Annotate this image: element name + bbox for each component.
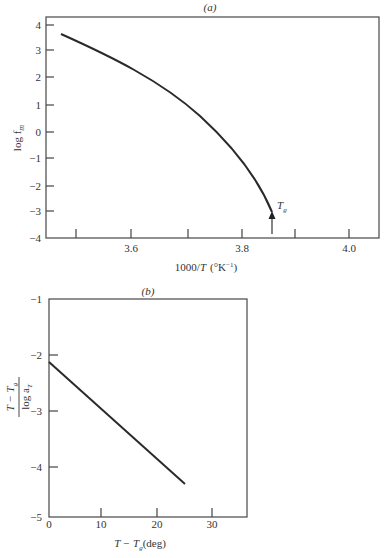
- x-axis-a: 3.6 3.8 4.0: [76, 229, 356, 254]
- x-axis-title-a: 1000/T(°K−1): [175, 261, 238, 274]
- data-curve-a: [61, 34, 272, 212]
- tg-label: Tg: [277, 199, 287, 214]
- chart-a: (a) 4 3 2 1 0 −1 −2 −3 −4 log fm: [11, 1, 379, 274]
- y-tick-label: −4: [29, 232, 41, 244]
- y-tick-label: −1: [30, 293, 42, 305]
- y-tick-label: 1: [36, 99, 42, 111]
- y-tick-label: −4: [30, 461, 42, 473]
- y-tick-label: 4: [36, 19, 42, 31]
- y-tick-label: 0: [36, 126, 42, 138]
- y-tick-label: −2: [29, 180, 41, 192]
- y-tick-label: −1: [29, 152, 41, 164]
- x-tick-label: 20: [152, 518, 164, 530]
- svg-text:T − Tg: T − Tg: [4, 382, 19, 411]
- arrow-up-icon: [269, 211, 276, 219]
- panel-label-b: (b): [142, 285, 155, 298]
- y-tick-label: −3: [30, 405, 42, 417]
- tg-marker: Tg: [269, 199, 288, 234]
- x-tick-label: 4.0: [342, 242, 356, 254]
- x-axis-title-b: T − Tg(deg): [114, 537, 166, 552]
- figure: (a) 4 3 2 1 0 −1 −2 −3 −4 log fm: [0, 0, 385, 558]
- panel-label-a: (a): [204, 1, 217, 14]
- x-tick-label: 10: [96, 518, 108, 530]
- plot-frame-b: [49, 299, 247, 517]
- y-tick-label: 3: [36, 44, 42, 56]
- y-tick-label: −2: [30, 349, 42, 361]
- y-axis-title-a: log fm: [11, 125, 26, 151]
- x-axis-b: 0 10 20 30: [46, 508, 218, 530]
- y-tick-label: 2: [36, 71, 42, 83]
- y-axis-b: −1 −2 −3 −4 −5: [30, 293, 58, 523]
- chart-b: (b) −1 −2 −3 −4 −5 T − Tg log aT 0 10 20: [4, 285, 247, 552]
- x-tick-label: 0: [46, 518, 52, 530]
- x-tick-label: 3.8: [235, 242, 249, 254]
- x-tick-label: 3.6: [124, 242, 138, 254]
- data-line-b: [49, 362, 185, 484]
- y-tick-label: −3: [29, 205, 41, 217]
- y-tick-label: −5: [30, 511, 42, 523]
- x-tick-label: 30: [207, 518, 219, 530]
- y-axis-a: 4 3 2 1 0 −1 −2 −3 −4: [29, 19, 54, 244]
